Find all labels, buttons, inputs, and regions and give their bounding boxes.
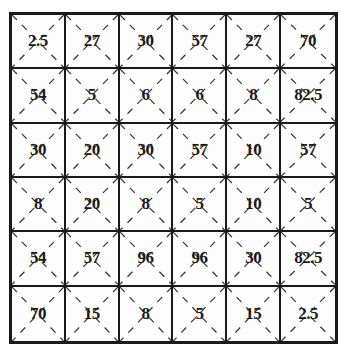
cell-value: 20 bbox=[84, 194, 100, 214]
grid-cell: 70 bbox=[12, 287, 66, 341]
cell-value: 10 bbox=[245, 140, 261, 160]
cell-value: 54 bbox=[30, 85, 46, 105]
grid-cell: 5 bbox=[281, 178, 335, 232]
cell-value: 2.5 bbox=[298, 304, 318, 324]
cell-value: 10 bbox=[245, 194, 261, 214]
grid-cell: 82.5 bbox=[281, 69, 335, 123]
cell-value: 82.5 bbox=[294, 248, 322, 268]
grid-cell: 54 bbox=[12, 232, 66, 286]
grid-cell: 30 bbox=[120, 124, 174, 178]
cell-value: 57 bbox=[300, 140, 316, 160]
cell-value: 82.5 bbox=[294, 85, 322, 105]
cell-value: 57 bbox=[191, 140, 207, 160]
grid-cell: 30 bbox=[12, 124, 66, 178]
grid-cell: 57 bbox=[173, 15, 227, 69]
cell-value: 30 bbox=[245, 248, 261, 268]
grid-cell: 57 bbox=[173, 124, 227, 178]
cell-value: 70 bbox=[30, 304, 46, 324]
grid-cell: 70 bbox=[281, 15, 335, 69]
grid-cell: 57 bbox=[66, 232, 120, 286]
grid-cell: 96 bbox=[173, 232, 227, 286]
cell-value: 54 bbox=[30, 248, 46, 268]
cell-value: 5 bbox=[88, 85, 96, 105]
cell-value: 57 bbox=[84, 248, 100, 268]
cell-value: 8 bbox=[249, 85, 257, 105]
cell-value: 57 bbox=[191, 31, 207, 51]
cell-value: 30 bbox=[30, 140, 46, 160]
grid-cell: 27 bbox=[66, 15, 120, 69]
grid-cell: 6 bbox=[173, 69, 227, 123]
grid-cell: 8 bbox=[227, 69, 281, 123]
cell-value: 27 bbox=[245, 31, 261, 51]
grid-cell: 5 bbox=[173, 178, 227, 232]
grid-cell: 8 bbox=[120, 287, 174, 341]
grid-cell: 8 bbox=[120, 178, 174, 232]
cell-value: 20 bbox=[84, 140, 100, 160]
grid-cell: 20 bbox=[66, 178, 120, 232]
cell-value: 15 bbox=[84, 304, 100, 324]
cell-value: 2.5 bbox=[28, 31, 48, 51]
grid-cell: 15 bbox=[227, 287, 281, 341]
cell-value: 15 bbox=[245, 304, 261, 324]
grid-cell: 57 bbox=[281, 124, 335, 178]
cell-value: 30 bbox=[138, 140, 154, 160]
cell-value: 27 bbox=[84, 31, 100, 51]
cell-value: 8 bbox=[142, 194, 150, 214]
grid-cell: 20 bbox=[66, 124, 120, 178]
grid-cell: 6 bbox=[120, 69, 174, 123]
grid-cell: 27 bbox=[227, 15, 281, 69]
cell-value: 8 bbox=[34, 194, 42, 214]
grid-cell: 5 bbox=[66, 69, 120, 123]
value-grid: 2.5273057277054566882.530203057105782085… bbox=[9, 12, 338, 344]
grid-cell: 2.5 bbox=[281, 287, 335, 341]
grid-cell: 10 bbox=[227, 178, 281, 232]
cell-value: 96 bbox=[138, 248, 154, 268]
grid-cell: 10 bbox=[227, 124, 281, 178]
grid-cell: 30 bbox=[227, 232, 281, 286]
cell-value: 5 bbox=[195, 194, 203, 214]
cell-value: 5 bbox=[304, 194, 312, 214]
grid-cell: 82.5 bbox=[281, 232, 335, 286]
grid-cell: 30 bbox=[120, 15, 174, 69]
grid-cell: 8 bbox=[12, 178, 66, 232]
grid-cell: 2.5 bbox=[12, 15, 66, 69]
cell-value: 30 bbox=[138, 31, 154, 51]
grid-cell: 54 bbox=[12, 69, 66, 123]
cell-value: 6 bbox=[142, 85, 150, 105]
grid-cell: 96 bbox=[120, 232, 174, 286]
grid-cell: 5 bbox=[173, 287, 227, 341]
cell-value: 6 bbox=[195, 85, 203, 105]
cell-value: 5 bbox=[195, 304, 203, 324]
cell-value: 96 bbox=[191, 248, 207, 268]
cell-value: 70 bbox=[300, 31, 316, 51]
grid-cell: 15 bbox=[66, 287, 120, 341]
cell-value: 8 bbox=[142, 304, 150, 324]
